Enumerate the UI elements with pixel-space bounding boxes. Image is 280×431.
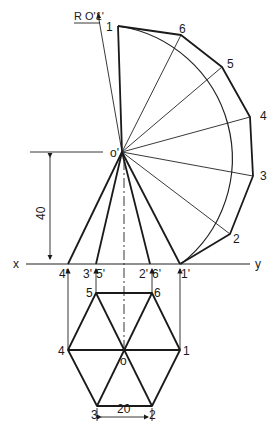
fv-label-1: 1' bbox=[181, 267, 190, 281]
plan-label-2: 2 bbox=[149, 408, 156, 422]
dev-label-2: 2 bbox=[233, 232, 240, 246]
dev-label-3: 3 bbox=[260, 169, 267, 183]
plan-label-4: 4 bbox=[58, 344, 65, 358]
x-axis-label: x bbox=[13, 257, 19, 271]
y-axis-label: y bbox=[255, 257, 261, 271]
dev-label-4: 4 bbox=[260, 109, 267, 123]
fv-label-4: 4' bbox=[59, 267, 68, 281]
pyramid-development-diagram: R O'1' x y 40 o' 4' 3' 5' 2' 6' 1' 1 2 3… bbox=[0, 0, 280, 431]
height-dimension-label: 40 bbox=[34, 206, 48, 220]
fv-label-2: 2' bbox=[139, 267, 148, 281]
dev-label-5: 5 bbox=[227, 57, 234, 71]
plan-center-label: o bbox=[120, 354, 127, 368]
fv-label-6: 6' bbox=[152, 267, 161, 281]
dev-label-6: 6 bbox=[179, 22, 186, 36]
fv-label-3: 3' bbox=[83, 267, 92, 281]
radius-label: R O'1' bbox=[74, 10, 104, 22]
side-dimension-label: 20 bbox=[117, 402, 131, 416]
apex-label: o' bbox=[110, 146, 119, 160]
plan-label-6: 6 bbox=[154, 286, 161, 300]
plan-label-1: 1 bbox=[183, 344, 190, 358]
plan-label-5: 5 bbox=[86, 286, 93, 300]
dev-label-1: 1 bbox=[106, 20, 113, 34]
fv-label-5: 5' bbox=[96, 267, 105, 281]
